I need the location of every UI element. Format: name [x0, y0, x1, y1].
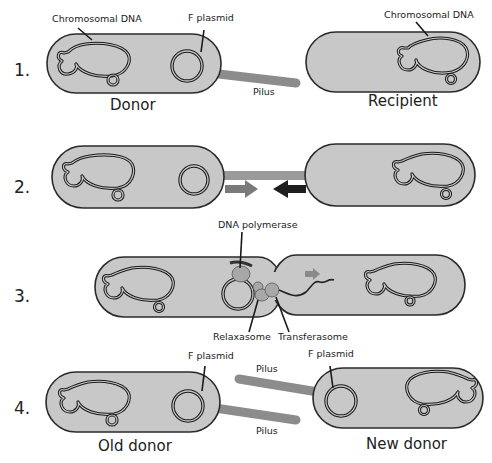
label-f-plasmid: F plasmid — [188, 350, 234, 361]
label-pilus: Pilus — [253, 86, 275, 97]
donor-cell — [47, 34, 221, 93]
pilus-bridge — [222, 171, 306, 180]
label-new-donor: New donor — [366, 435, 448, 453]
label-donor: Donor — [110, 96, 156, 114]
label-old-donor: Old donor — [98, 437, 173, 455]
step-2: 2. — [14, 144, 475, 208]
step-number: 4. — [14, 398, 30, 418]
step-number: 2. — [14, 177, 30, 197]
step-number: 3. — [14, 286, 30, 306]
step-3: 3. — [14, 219, 465, 342]
label-chromosomal-dna: Chromosomal DNA — [384, 9, 474, 20]
conjugation-diagram: 1. Chromosomal DNA F plasmid Donor Pilus — [0, 0, 492, 463]
label-f-plasmid: F plasmid — [308, 348, 354, 359]
label-f-plasmid: F plasmid — [188, 12, 234, 23]
label-chromosomal-dna: Chromosomal DNA — [52, 13, 142, 24]
label-pilus: Pilus — [256, 425, 278, 436]
step-number: 1. — [14, 60, 30, 80]
transferasome-icon — [265, 283, 279, 297]
donor-cell — [52, 146, 224, 208]
label-pilus: Pilus — [256, 363, 278, 374]
pilus — [210, 73, 296, 83]
pilus-bottom — [215, 408, 296, 420]
step-1: 1. Chromosomal DNA F plasmid Donor Pilus — [14, 9, 480, 114]
arrow-left-icon — [273, 180, 306, 198]
label-dna-polymerase: DNA polymerase — [218, 219, 298, 230]
pilus-top — [239, 379, 318, 392]
step-4: 4. F plasmid Pilus Pilus Old donor — [14, 348, 483, 455]
old-donor-cell — [46, 372, 220, 432]
arrow-right-icon — [225, 180, 258, 198]
label-relaxasome: Relaxasome — [213, 331, 271, 342]
label-transferasome: Transferasome — [277, 331, 348, 342]
label-recipient: Recipient — [368, 92, 438, 110]
